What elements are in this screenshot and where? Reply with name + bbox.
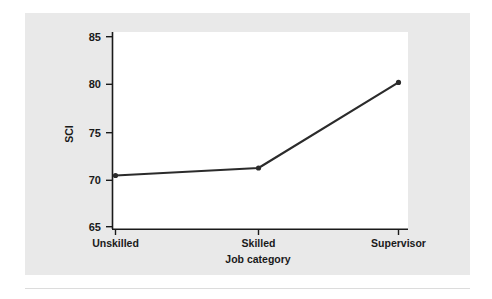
- data-point-supervisor: [396, 80, 401, 85]
- figure-page: 85 80 75 70 65 SCI Unskilled Skilled Sup…: [0, 0, 492, 299]
- x-tick-label-supervisor: Supervisor: [371, 237, 426, 249]
- y-tick-label-70: 70: [89, 174, 101, 186]
- y-tick-label-75: 75: [89, 127, 101, 139]
- footer-divider: [25, 288, 470, 289]
- x-tick-label-skilled: Skilled: [242, 237, 276, 249]
- y-tick-label-85: 85: [89, 31, 101, 43]
- y-tick-label-80: 80: [89, 78, 101, 90]
- plot-area-background: [112, 32, 408, 229]
- line-chart: 85 80 75 70 65 SCI Unskilled Skilled Sup…: [25, 13, 470, 275]
- y-axis-title: SCI: [63, 125, 75, 143]
- x-tick-label-unskilled: Unskilled: [92, 237, 139, 249]
- data-point-skilled: [256, 165, 261, 170]
- x-axis-title: Job category: [225, 253, 291, 265]
- data-point-unskilled: [113, 173, 118, 178]
- figure-panel: 85 80 75 70 65 SCI Unskilled Skilled Sup…: [25, 13, 470, 275]
- y-axis-ticks: [106, 37, 112, 227]
- y-tick-label-65: 65: [89, 221, 101, 233]
